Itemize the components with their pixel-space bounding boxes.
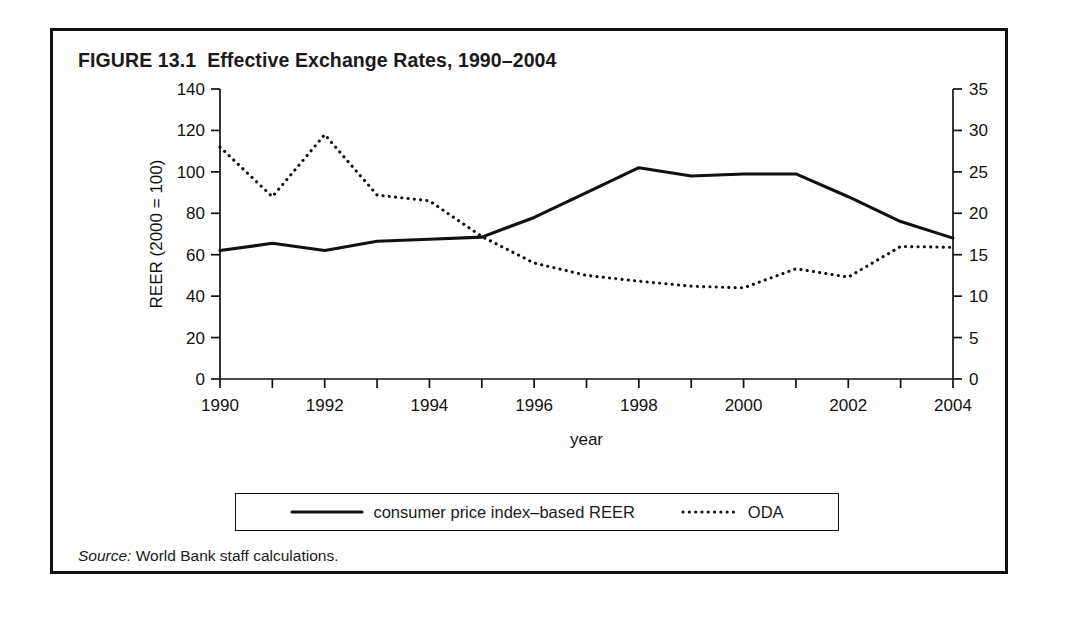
x-axis-tick-label: 1990 xyxy=(201,396,239,415)
figure-title: FIGURE 13.1 Effective Exchange Rates, 19… xyxy=(78,49,556,72)
legend-label-oda: ODA xyxy=(748,503,784,522)
legend-item-reer: consumer price index–based REER xyxy=(290,503,634,522)
x-axis-tick-label: 2002 xyxy=(829,396,867,415)
y-axis-right-tick-label: 0 xyxy=(969,370,978,389)
chart-legend: consumer price index–based REER ODA xyxy=(235,493,839,531)
y-axis-left-tick-label: 80 xyxy=(186,204,205,223)
legend-label-reer: consumer price index–based REER xyxy=(373,503,634,522)
y-axis-left-tick-label: 20 xyxy=(186,329,205,348)
y-axis-right-tick-label: 15 xyxy=(969,246,988,265)
series-layer xyxy=(220,135,953,288)
y-axis-right-title: ODA (% of GDP) xyxy=(1004,170,1005,298)
y-axis-left-tick-label: 100 xyxy=(177,163,205,182)
series-line-oda xyxy=(220,135,953,288)
legend-swatch-dotted-line-icon xyxy=(681,506,739,518)
source-text: World Bank staff calculations. xyxy=(131,547,338,564)
y-axis-left-tick-label: 60 xyxy=(186,246,205,265)
x-axis-tick-label: 1994 xyxy=(411,396,449,415)
y-axis-left-tick-label: 0 xyxy=(196,370,205,389)
y-axis-right-tick-label: 20 xyxy=(969,204,988,223)
y-axis-right-tick-label: 10 xyxy=(969,287,988,306)
y-axis-right-tick-label: 5 xyxy=(969,329,978,348)
y-axis-right-tick-label: 35 xyxy=(969,80,988,99)
x-axis-tick-label: 1996 xyxy=(515,396,553,415)
legend-swatch-solid-line-icon xyxy=(290,506,364,518)
x-axis-tick-label: 1998 xyxy=(620,396,658,415)
y-axis-left-tick-label: 40 xyxy=(186,287,205,306)
exchange-rate-line-chart: 0204060801001201400510152025303519901992… xyxy=(53,77,1005,477)
source-prefix: Source: xyxy=(78,547,131,564)
source-note: Source: World Bank staff calculations. xyxy=(78,547,338,565)
x-axis-title: year xyxy=(570,430,603,449)
y-axis-left-tick-label: 120 xyxy=(177,121,205,140)
figure-panel: FIGURE 13.1 Effective Exchange Rates, 19… xyxy=(50,28,1008,574)
axis-labels-layer: 0204060801001201400510152025303519901992… xyxy=(147,80,1005,449)
y-axis-left-title: REER (2000 = 100) xyxy=(147,160,166,309)
series-line-reer xyxy=(220,168,953,251)
y-axis-right-tick-label: 25 xyxy=(969,163,988,182)
x-axis-tick-label: 2004 xyxy=(934,396,972,415)
y-axis-left-tick-label: 140 xyxy=(177,80,205,99)
y-axis-right-tick-label: 30 xyxy=(969,121,988,140)
x-axis-tick-label: 2000 xyxy=(725,396,763,415)
x-axis-tick-label: 1992 xyxy=(306,396,344,415)
chart-plot-area: 0204060801001201400510152025303519901992… xyxy=(53,77,1005,477)
legend-item-oda: ODA xyxy=(681,503,784,522)
axes-layer xyxy=(211,89,962,388)
